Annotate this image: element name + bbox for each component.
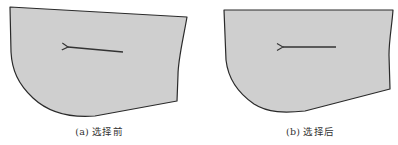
caption-panel-b: (b) 选择后 bbox=[286, 124, 334, 138]
panel-a-shape bbox=[10, 7, 187, 116]
panel-b bbox=[224, 10, 393, 112]
figure-canvas bbox=[0, 0, 398, 145]
panel-b-shape bbox=[224, 10, 393, 112]
caption-panel-a: (a) 选择前 bbox=[75, 124, 123, 138]
panel-a bbox=[10, 7, 187, 116]
